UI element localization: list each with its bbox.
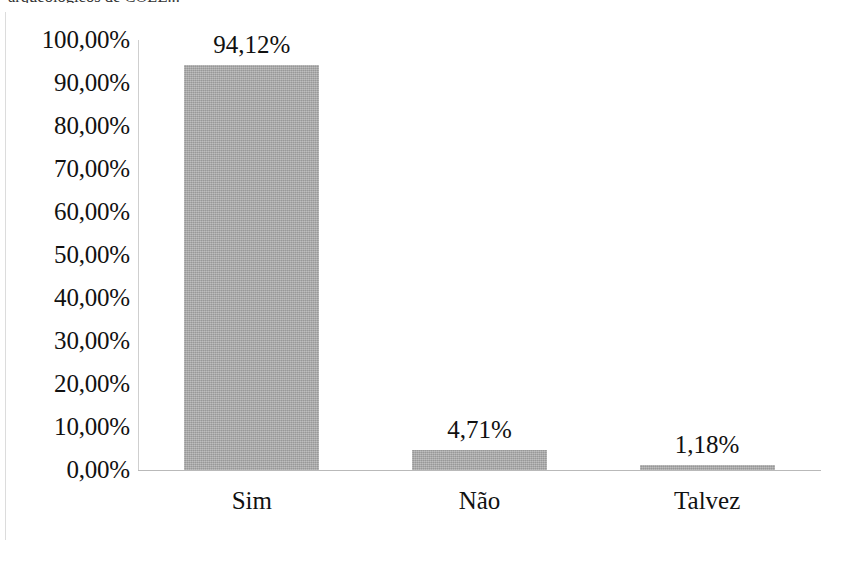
bar-sim <box>184 65 319 470</box>
x-axis-category-label: Sim <box>138 487 366 515</box>
y-axis-tick-label: 0,00% <box>2 457 130 482</box>
y-axis-tick-label: 60,00% <box>2 199 130 224</box>
y-axis-tick-label: 20,00% <box>2 371 130 396</box>
y-axis-tick-label: 30,00% <box>2 328 130 353</box>
y-axis-tick-label: 10,00% <box>2 414 130 439</box>
x-axis-category-label: Talvez <box>593 487 821 515</box>
y-axis-tick-label: 70,00% <box>2 156 130 181</box>
y-axis-tick-labels: 100,00%90,00%80,00%70,00%60,00%50,00%40,… <box>0 0 130 480</box>
bar-value-label: 1,18% <box>593 432 821 457</box>
chart-page: arqueológicos de COLE... 100,00%90,00%80… <box>0 0 845 575</box>
bar-value-label: 4,71% <box>366 417 594 442</box>
bar-talvez <box>640 465 775 470</box>
plot-area <box>138 40 821 470</box>
y-axis-tick-label: 100,00% <box>2 27 130 52</box>
y-axis-tick-label: 40,00% <box>2 285 130 310</box>
y-axis-tick-label: 80,00% <box>2 113 130 138</box>
x-axis-category-label: Não <box>366 487 594 515</box>
bar-value-label: 94,12% <box>138 32 366 57</box>
bar-não <box>412 450 547 470</box>
x-axis-line <box>138 470 821 471</box>
bar-chart: 100,00%90,00%80,00%70,00%60,00%50,00%40,… <box>0 0 845 575</box>
y-axis-tick-label: 50,00% <box>2 242 130 267</box>
y-axis-tick-label: 90,00% <box>2 70 130 95</box>
